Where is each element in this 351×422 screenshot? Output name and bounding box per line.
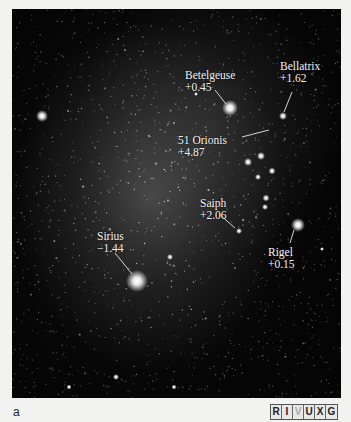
star-name: Rigel <box>268 246 295 258</box>
sirius-label: Sirius −1.44 <box>97 230 124 254</box>
band-r: R <box>271 405 282 419</box>
star-magnitude: +4.87 <box>178 146 227 158</box>
bellatrix-star <box>279 112 287 120</box>
star-magnitude: +0.45 <box>185 81 235 93</box>
star-magnitude: +0.15 <box>268 258 295 270</box>
star-field-photo: Betelgeuse +0.45 Bellatrix +1.62 51 Orio… <box>12 9 341 398</box>
bellatrix-label: Bellatrix +1.62 <box>280 60 320 84</box>
band-g: G <box>326 405 337 419</box>
rigel-label: Rigel +0.15 <box>268 246 295 270</box>
band-v: V <box>293 405 304 419</box>
band-x: X <box>315 405 326 419</box>
saiph-label: Saiph +2.06 <box>200 197 227 221</box>
betelgeuse-label: Betelgeuse +0.45 <box>185 69 235 93</box>
star-name: 51 Orionis <box>178 134 227 146</box>
band-u: U <box>304 405 315 419</box>
star-name: Saiph <box>200 197 227 209</box>
band-i: I <box>282 405 293 419</box>
saiph-star <box>236 228 242 234</box>
star-name: Bellatrix <box>280 60 320 72</box>
left-bright-star <box>36 110 48 122</box>
51-orionis-label: 51 Orionis +4.87 <box>178 134 227 158</box>
star-magnitude: +2.06 <box>200 209 227 221</box>
star-name: Betelgeuse <box>185 69 235 81</box>
star-magnitude: −1.44 <box>97 242 124 254</box>
star-magnitude: +1.62 <box>280 72 320 84</box>
wavelength-band-indicator: R I V U X G <box>270 404 338 420</box>
sirius-star <box>126 270 148 292</box>
panel-letter: a <box>13 405 20 419</box>
star-name: Sirius <box>97 230 124 242</box>
rigel-star <box>291 218 305 232</box>
